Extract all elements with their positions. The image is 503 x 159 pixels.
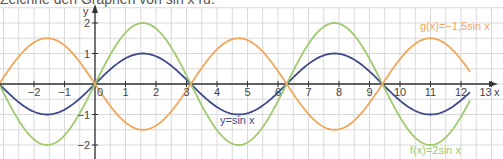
svg-text:11: 11 bbox=[425, 86, 436, 98]
svg-text:−1: −1 bbox=[77, 109, 90, 121]
label-g: g(x)=−1,5sin x bbox=[420, 20, 490, 32]
svg-text:2: 2 bbox=[84, 17, 90, 29]
label-sin: y=sin x bbox=[220, 114, 255, 126]
svg-text:4: 4 bbox=[214, 86, 220, 98]
svg-text:12: 12 bbox=[455, 86, 467, 98]
svg-text:6: 6 bbox=[275, 86, 281, 98]
svg-text:1: 1 bbox=[122, 86, 128, 98]
svg-text:0: 0 bbox=[97, 86, 103, 98]
svg-text:9: 9 bbox=[366, 86, 372, 98]
svg-text:8: 8 bbox=[336, 86, 342, 98]
svg-text:−2: −2 bbox=[28, 86, 41, 98]
label-f: f(x)=2sin x bbox=[410, 144, 462, 156]
svg-text:13: 13 bbox=[480, 86, 492, 98]
svg-text:7: 7 bbox=[305, 86, 311, 98]
svg-text:−1: −1 bbox=[58, 86, 71, 98]
svg-text:5: 5 bbox=[244, 86, 250, 98]
sine-chart: −2−1012345678910111213−2−112 y=sin x f(x… bbox=[0, 0, 503, 159]
svg-text:10: 10 bbox=[394, 86, 406, 98]
x-axis-label: x bbox=[494, 86, 500, 98]
svg-text:3: 3 bbox=[183, 86, 189, 98]
svg-text:−2: −2 bbox=[77, 139, 90, 151]
svg-text:2: 2 bbox=[153, 86, 159, 98]
svg-text:1: 1 bbox=[84, 48, 90, 60]
y-axis-label: y bbox=[83, 5, 89, 17]
